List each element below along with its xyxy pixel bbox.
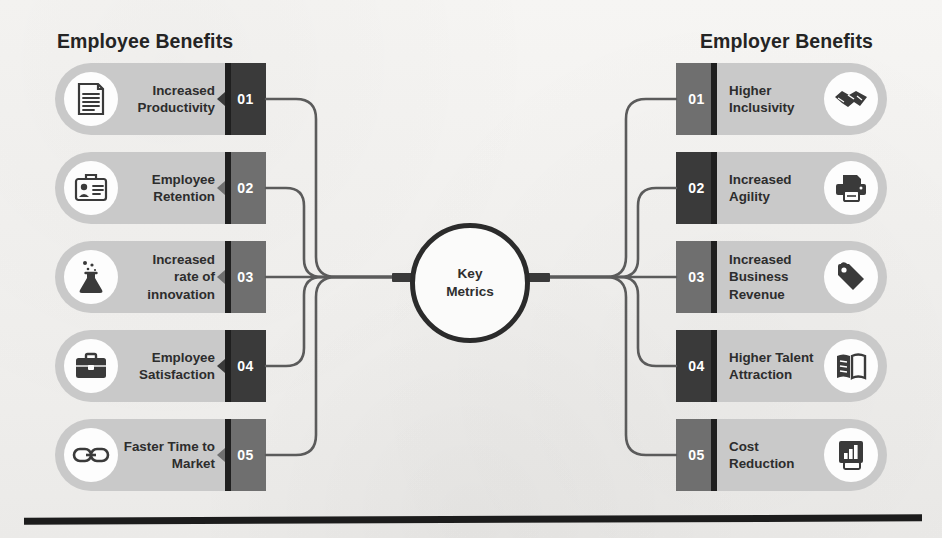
right-item-03-pill[interactable]: Increased Business Revenue (717, 241, 887, 313)
left-item-04-number-block[interactable]: 04 (225, 330, 266, 402)
price-tag-icon (824, 250, 878, 304)
printer-icon (824, 161, 878, 215)
left-item-01-number-block[interactable]: 01 (225, 63, 266, 135)
right-item-02-number-block[interactable]: 02 (676, 152, 717, 224)
wire-left-02 (266, 188, 392, 277)
left-item-02-label: Employee Retention (87, 171, 215, 205)
number-edge-strip (225, 330, 231, 402)
left-item-02[interactable]: Employee Retention 02 (55, 152, 266, 224)
bottom-divider-rule (24, 514, 922, 524)
left-item-01[interactable]: Increased Productivity 01 (55, 63, 266, 135)
wire-right-01 (550, 99, 676, 277)
left-column-title: Employee Benefits (57, 30, 233, 53)
left-item-05-number: 05 (237, 447, 253, 463)
wire-left-01 (266, 99, 392, 277)
right-item-04-number-block[interactable]: 04 (676, 330, 717, 402)
wire-right-02 (550, 188, 676, 277)
right-item-02[interactable]: 02 Increased Agility (676, 152, 887, 224)
left-item-02-number-block[interactable]: 02 (225, 152, 266, 224)
center-hub[interactable]: Key Metrics (410, 223, 530, 343)
right-item-03[interactable]: 03 Increased Business Revenue (676, 241, 887, 313)
left-item-05-pill[interactable]: Faster Time to Market (55, 419, 225, 491)
wire-right-05 (550, 277, 676, 455)
bar-chart-report-icon (824, 428, 878, 482)
left-item-02-pill[interactable]: Employee Retention (55, 152, 225, 224)
right-item-04-pill[interactable]: Higher Talent Attraction (717, 330, 887, 402)
handshake-icon (824, 72, 878, 126)
left-item-03-pill[interactable]: Increased rate of innovation (55, 241, 225, 313)
left-item-05-number-block[interactable]: 05 (225, 419, 266, 491)
left-item-03-number-block[interactable]: 03 (225, 241, 266, 313)
left-item-04[interactable]: Employee Satisfaction 04 (55, 330, 266, 402)
left-item-04-pill[interactable]: Employee Satisfaction (55, 330, 225, 402)
right-item-03-number-block[interactable]: 03 (676, 241, 717, 313)
left-item-01-label: Increased Productivity (87, 82, 215, 116)
left-item-01-number: 01 (237, 91, 253, 107)
number-arrow-icon (217, 359, 225, 373)
number-edge-strip (225, 419, 231, 491)
wire-left-04 (266, 277, 392, 366)
right-item-04[interactable]: 04 Higher Talent Attraction (676, 330, 887, 402)
number-arrow-icon (217, 181, 225, 195)
left-item-04-number: 04 (237, 358, 253, 374)
left-item-01-pill[interactable]: Increased Productivity (55, 63, 225, 135)
left-item-02-number: 02 (237, 180, 253, 196)
number-arrow-icon (217, 448, 225, 462)
hub-stub-right (528, 273, 550, 282)
number-arrow-icon (217, 270, 225, 284)
left-item-05[interactable]: Faster Time to Market 05 (55, 419, 266, 491)
right-item-01-pill[interactable]: Higher Inclusivity (717, 63, 887, 135)
number-edge-strip (225, 63, 231, 135)
wire-right-04 (550, 277, 676, 366)
right-item-05-number: 05 (688, 447, 704, 463)
left-item-03[interactable]: Increased rate of innovation 03 (55, 241, 266, 313)
diagram-canvas: Employee Benefits Employer Benefits Key … (0, 0, 942, 538)
right-item-05-pill[interactable]: Cost Reduction (717, 419, 887, 491)
left-item-05-label: Faster Time to Market (87, 438, 215, 472)
right-column-title: Employer Benefits (700, 30, 873, 53)
right-item-01[interactable]: 01 Higher Inclusivity (676, 63, 887, 135)
right-item-04-number: 04 (688, 358, 704, 374)
right-item-02-number: 02 (688, 180, 704, 196)
wire-left-05 (266, 277, 392, 455)
left-item-03-label: Increased rate of innovation (87, 251, 215, 302)
right-item-01-number-block[interactable]: 01 (676, 63, 717, 135)
right-item-05-number-block[interactable]: 05 (676, 419, 717, 491)
right-item-02-pill[interactable]: Increased Agility (717, 152, 887, 224)
open-book-icon (824, 339, 878, 393)
left-item-03-number: 03 (237, 269, 253, 285)
right-item-01-number: 01 (688, 91, 704, 107)
center-hub-label: Key Metrics (446, 265, 494, 301)
number-edge-strip (225, 241, 231, 313)
right-item-05[interactable]: 05 Cost Reduction (676, 419, 887, 491)
number-arrow-icon (217, 92, 225, 106)
right-item-03-number: 03 (688, 269, 704, 285)
number-edge-strip (225, 152, 231, 224)
left-item-04-label: Employee Satisfaction (87, 349, 215, 383)
